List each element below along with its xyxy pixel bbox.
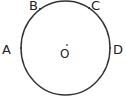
label-b: B [29,0,38,13]
label-a: A [2,42,11,57]
point-a-marker [20,47,22,49]
label-center-o: O [60,47,69,61]
label-d: D [113,42,123,57]
point-b-marker [39,8,41,10]
point-c-marker [88,7,90,9]
center-dot [66,44,68,46]
point-d-marker [109,47,111,49]
circle-diagram: A B C D O [0,0,126,101]
label-c: C [91,0,100,13]
